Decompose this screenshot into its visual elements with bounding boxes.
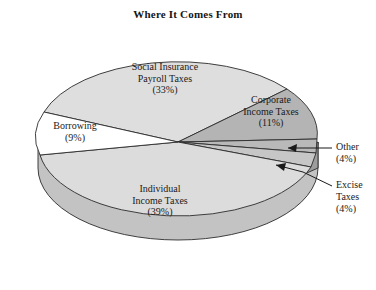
label-line: Other <box>336 141 359 153</box>
label-line: (33%) <box>110 84 220 96</box>
label-line: Income Taxes <box>105 195 215 207</box>
label-line: Excise <box>336 179 363 191</box>
label-line: (4%) <box>336 203 363 215</box>
label-line: Corporate <box>225 94 317 106</box>
label-borrowing: Borrowing (9%) <box>33 120 117 143</box>
label-line: Social Insurance <box>110 61 220 73</box>
label-line: (39%) <box>105 206 215 218</box>
label-line: Income Taxes <box>225 106 317 118</box>
label-line: Taxes <box>336 191 363 203</box>
label-line: (9%) <box>33 132 117 144</box>
label-social-insurance-payroll-taxes: Social Insurance Payroll Taxes (33%) <box>110 61 220 96</box>
label-line: (4%) <box>336 153 359 165</box>
pie-chart-figure: Where It Comes From <box>0 0 376 290</box>
label-line: Individual <box>105 183 215 195</box>
pie-chart-graphic <box>0 0 376 290</box>
label-line: Borrowing <box>33 120 117 132</box>
label-other: Other (4%) <box>336 141 359 165</box>
label-excise-taxes: Excise Taxes (4%) <box>336 179 363 215</box>
label-line: (11%) <box>225 117 317 129</box>
label-individual-income-taxes: Individual Income Taxes (39%) <box>105 183 215 218</box>
label-line: Payroll Taxes <box>110 73 220 85</box>
label-corporate-income-taxes: Corporate Income Taxes (11%) <box>225 94 317 129</box>
